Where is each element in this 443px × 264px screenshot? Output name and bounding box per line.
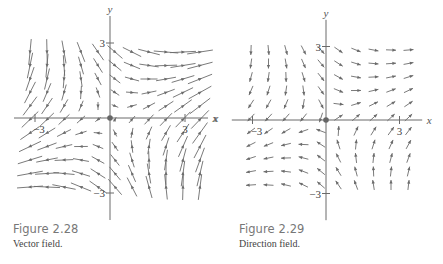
arrowhead-icon [267, 91, 270, 95]
arrowhead-icon [114, 145, 117, 149]
figure-2-28: −333−3xy Figure 2.28 Vector field. [0, 0, 225, 264]
arrowhead-icon [264, 170, 268, 173]
arrowhead-icon [249, 51, 252, 55]
x-axis-label: x [426, 114, 432, 126]
vector-field-plot: −333−3xy [0, 0, 225, 220]
arrowhead-icon [181, 185, 184, 189]
y-tick-label-neg3: −3 [309, 188, 321, 200]
arrowhead-icon [62, 64, 65, 68]
arrowhead-icon [299, 143, 303, 146]
arrowhead-icon [28, 131, 32, 134]
arrowhead-icon [45, 172, 49, 175]
arrowhead-icon [181, 64, 185, 67]
arrowhead-icon [29, 77, 32, 81]
arrowhead-icon [80, 91, 83, 95]
arrowhead-icon [28, 172, 32, 175]
arrowhead-icon [46, 104, 49, 108]
arrowhead-icon [147, 91, 151, 94]
arrowhead-icon [246, 184, 250, 187]
arrowhead-icon [131, 158, 134, 162]
arrowhead-icon [357, 62, 361, 65]
arrowhead-icon [147, 77, 151, 80]
arrowhead-icon [357, 102, 361, 105]
arrowhead-icon [45, 50, 48, 54]
arrowhead-icon [357, 76, 361, 79]
arrowhead-icon [130, 105, 134, 108]
arrowhead-icon [79, 172, 83, 175]
y-tick-label-3: 3 [100, 37, 106, 49]
arrow-field [246, 45, 413, 190]
arrowhead-icon [299, 169, 303, 172]
arrowhead-icon [354, 180, 357, 184]
x-tick-label-neg3: −3 [251, 125, 263, 137]
arrowhead-icon [198, 78, 202, 81]
origin-dot [323, 117, 329, 123]
arrowhead-icon [357, 89, 361, 92]
arrowhead-icon [339, 49, 343, 52]
y-tick-label-neg3: −3 [93, 187, 105, 199]
arrowhead-icon [198, 51, 202, 54]
arrowhead-icon [246, 157, 250, 160]
arrowhead-icon [62, 186, 66, 189]
arrowhead-icon [409, 101, 413, 104]
arrowhead-icon [392, 89, 396, 92]
x-tick-label-3: 3 [182, 123, 188, 135]
arrowhead-icon [29, 64, 32, 68]
arrowhead-icon [181, 50, 185, 53]
arrowhead-icon [148, 172, 151, 176]
arrowhead-icon [28, 158, 32, 161]
arrowhead-icon [409, 75, 413, 78]
arrowhead-icon [267, 65, 270, 69]
arrowhead-icon [372, 140, 375, 144]
x-tick-label-neg3: −3 [33, 123, 45, 135]
arrowhead-icon [113, 90, 117, 93]
arrowhead-icon [130, 131, 133, 135]
arrowhead-icon [375, 49, 379, 52]
y-tick-label-3: 3 [316, 41, 322, 53]
arrowhead-icon [302, 78, 305, 82]
arrowhead-icon [372, 167, 375, 171]
arrowhead-icon [45, 185, 49, 188]
arrowhead-icon [96, 90, 99, 94]
arrowhead-icon [410, 62, 414, 65]
figure-2-29: −333−3xyx Figure 2.29 Direction field. [215, 0, 443, 264]
arrowhead-icon [79, 50, 82, 54]
arrowhead-icon [63, 77, 66, 81]
arrowhead-icon [96, 104, 99, 108]
arrowhead-icon [164, 50, 168, 53]
arrowhead-icon [316, 129, 320, 132]
arrowhead-icon [407, 153, 410, 157]
arrowhead-icon [302, 105, 305, 109]
arrowhead-icon [181, 78, 185, 81]
stray-x-label: x [213, 112, 219, 124]
arrowhead-icon [79, 145, 83, 148]
arrowhead-icon [147, 145, 150, 149]
figure-title: Figure 2.28 [13, 222, 78, 236]
arrowhead-icon [164, 78, 168, 81]
arrowhead-icon [96, 50, 99, 54]
arrowhead-icon [281, 156, 285, 159]
arrowhead-icon [28, 185, 32, 188]
arrowhead-icon [336, 181, 339, 185]
arrowhead-icon [79, 131, 83, 134]
arrowhead-icon [147, 158, 150, 162]
arrowhead-icon [79, 64, 82, 68]
y-axis-label: y [107, 3, 113, 15]
arrowhead-icon [79, 159, 83, 162]
arrowhead-icon [164, 92, 168, 95]
arrowhead-icon [392, 75, 396, 78]
x-tick-label-3: 3 [397, 125, 403, 137]
arrowhead-icon [62, 50, 65, 54]
arrowhead-icon [246, 170, 250, 173]
arrowhead-icon [392, 48, 396, 51]
arrowhead-icon [392, 62, 396, 65]
arrowhead-icon [410, 48, 414, 51]
arrowhead-icon [284, 78, 287, 82]
arrowhead-icon [45, 144, 49, 147]
arrowhead-icon [198, 158, 201, 162]
arrowhead-icon [299, 130, 303, 133]
arrowhead-icon [337, 126, 340, 130]
arrowhead-icon [130, 91, 134, 94]
figure-caption: Vector field. [13, 238, 62, 249]
arrowhead-icon [337, 140, 340, 144]
